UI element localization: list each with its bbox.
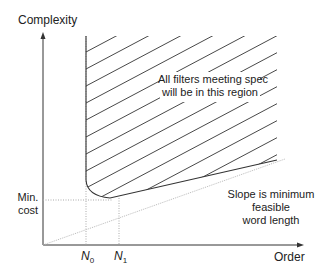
- region-label: All filters meeting spec will be in this…: [158, 73, 262, 99]
- x-axis-label: Order: [274, 251, 305, 264]
- x-axis-arrow-icon: [297, 243, 304, 248]
- slope-label-line3: word length: [226, 214, 316, 227]
- y-axis-label: Complexity: [18, 14, 77, 27]
- diagram-canvas: [0, 0, 325, 274]
- slope-label-line2: feasible: [226, 201, 316, 214]
- n1-label: N1: [114, 250, 127, 267]
- feasible-boundary-curve: [86, 36, 277, 198]
- region-label-line1: All filters meeting spec: [158, 73, 262, 86]
- y-axis-arrow-icon: [41, 32, 46, 39]
- min-cost-line1: Min.: [14, 191, 42, 204]
- min-cost-line2: cost: [14, 204, 42, 217]
- region-label-line2: will be in this region: [158, 86, 262, 99]
- slope-label: Slope is minimum feasible word length: [226, 188, 316, 227]
- n0-label: N0: [81, 250, 94, 267]
- min-cost-label: Min. cost: [14, 191, 42, 217]
- n1-subscript: 1: [123, 256, 127, 265]
- slope-label-line1: Slope is minimum: [226, 188, 316, 201]
- n1-letter: N: [114, 249, 123, 263]
- n0-letter: N: [81, 249, 90, 263]
- n0-subscript: 0: [90, 256, 94, 265]
